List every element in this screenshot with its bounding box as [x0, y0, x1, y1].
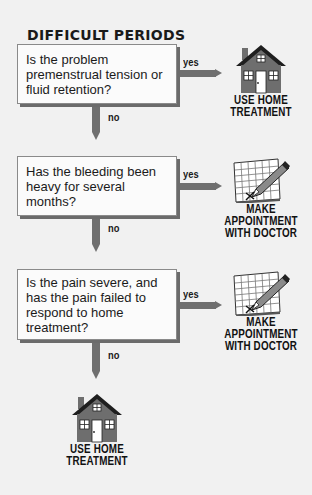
no-label-3: no [108, 349, 119, 361]
question-2-line: Has the bleeding been [26, 164, 168, 179]
question-box-2: Has the bleeding been heavy for several … [17, 156, 177, 216]
house-icon [70, 393, 124, 443]
question-2-line: heavy for several months? [26, 179, 168, 209]
calendar-pencil-icon [230, 270, 292, 316]
calendar-pencil-icon [230, 157, 292, 203]
outcome-label-line: TREATMENT [224, 106, 298, 118]
yes-arrow-3 [180, 302, 216, 309]
yes-label-2: yes [183, 168, 199, 180]
yes-arrow-1 [180, 70, 216, 77]
no-arrow-1 [92, 107, 100, 132]
question-1-line: Is the problem [26, 52, 163, 67]
question-3-line: respond to home [26, 305, 158, 320]
outcome-label-line: WITH DOCTOR [224, 227, 298, 239]
yes-arrow-2 [180, 183, 216, 190]
no-label-1: no [108, 111, 119, 123]
outcome-use-home-treatment-final: USE HOME TREATMENT [52, 393, 142, 467]
question-3-line: treatment? [26, 320, 158, 335]
outcome-label-line: WITH DOCTOR [224, 340, 298, 352]
question-1-line: fluid retention? [26, 82, 163, 97]
outcome-label-line: TREATMENT [60, 455, 134, 467]
outcome-use-home-treatment-1: USE HOME TREATMENT [216, 44, 306, 118]
no-arrow-2 [92, 219, 100, 244]
question-box-3: Is the pain severe, and has the pain fai… [17, 269, 177, 340]
flowchart-title: DIFFICULT PERIODS [27, 27, 185, 43]
question-3-line: has the pain failed to [26, 290, 158, 305]
outcome-make-appointment-2: MAKE APPOINTMENT WITH DOCTOR [216, 270, 306, 352]
yes-label-1: yes [183, 56, 199, 68]
question-box-1: Is the problem premenstrual tension or f… [17, 44, 177, 104]
yes-label-3: yes [183, 288, 199, 300]
outcome-make-appointment-1: MAKE APPOINTMENT WITH DOCTOR [216, 157, 306, 239]
question-3-line: Is the pain severe, and [26, 275, 158, 290]
no-label-2: no [108, 222, 119, 234]
house-icon [234, 44, 288, 94]
question-1-line: premenstrual tension or [26, 67, 163, 82]
no-arrow-3 [92, 343, 100, 371]
